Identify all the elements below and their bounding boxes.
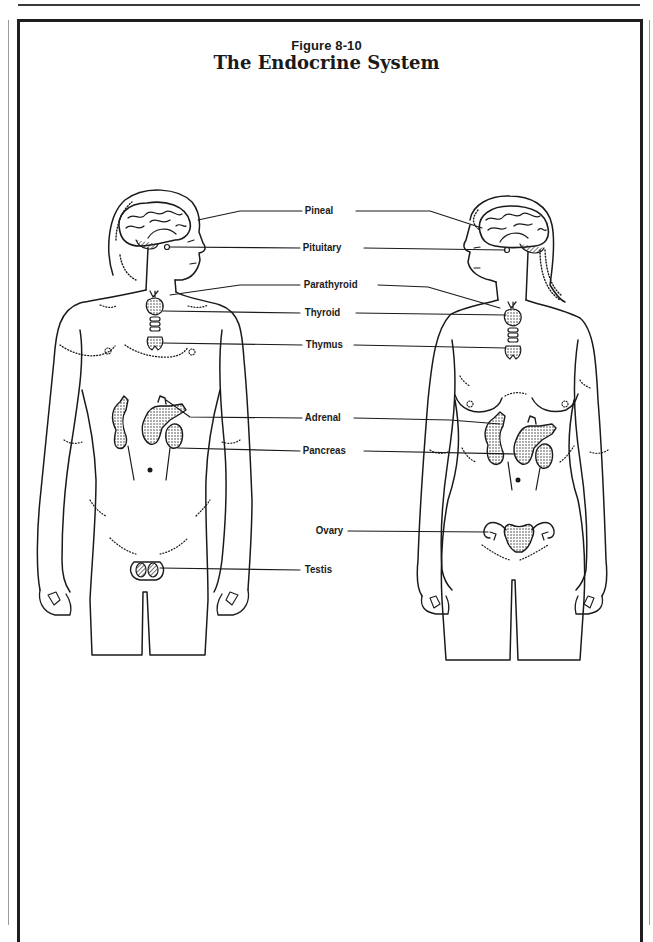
female-figure <box>417 196 608 660</box>
leader-lines <box>160 211 516 570</box>
label-testis: Testis <box>303 563 334 576</box>
label-parathyroid: Parathyroid <box>302 278 359 291</box>
label-ovary: Ovary <box>314 524 345 537</box>
female-uterus-ovaries <box>484 523 554 552</box>
label-thyroid: Thyroid <box>303 306 342 319</box>
female-thyroid-stack <box>504 302 521 359</box>
label-pituitary: Pituitary <box>301 241 343 254</box>
label-adrenal: Adrenal <box>303 411 343 424</box>
male-figure <box>37 190 252 655</box>
label-thymus: Thymus <box>304 338 345 351</box>
label-pineal: Pineal <box>303 204 335 217</box>
male-brain <box>119 202 190 249</box>
male-testis <box>131 562 164 580</box>
male-abdominal-glands <box>113 396 186 480</box>
male-thyroid-stack <box>146 291 163 350</box>
label-pancreas: Pancreas <box>301 444 348 457</box>
female-brain <box>479 206 548 253</box>
